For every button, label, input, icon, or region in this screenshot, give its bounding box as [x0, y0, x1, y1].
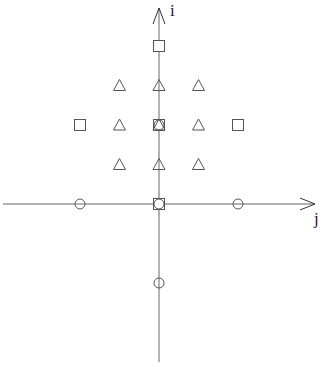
triangle-marker — [193, 119, 205, 130]
i-axis-label: i — [170, 1, 175, 21]
triangle-marker — [114, 159, 126, 170]
square-marker — [75, 120, 86, 131]
diagram-canvas — [0, 0, 324, 367]
square-marker — [154, 41, 165, 52]
triangle-marker — [114, 80, 126, 91]
stencil-diagram: i j — [0, 0, 324, 367]
triangle-marker — [114, 119, 126, 130]
triangle-marker — [193, 80, 205, 91]
square-marker — [233, 120, 244, 131]
j-axis-label: j — [314, 209, 319, 229]
triangle-marker — [193, 159, 205, 170]
